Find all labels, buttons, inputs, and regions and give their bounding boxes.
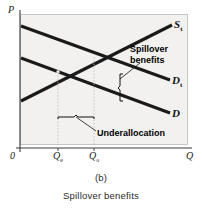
spillover-benefits-line1: Spillover bbox=[130, 44, 168, 55]
x-tick-qe-sub: e bbox=[60, 157, 63, 163]
underallocation-leader-line bbox=[76, 117, 96, 131]
underallocation-annotation: Underallocation bbox=[97, 128, 165, 139]
spillover-benefits-annotation: Spillover benefits bbox=[130, 44, 168, 66]
x-tick-qe: Qe bbox=[53, 150, 63, 163]
origin-label: 0 bbox=[10, 150, 15, 161]
curve-label-d-base: D bbox=[172, 107, 180, 119]
spillover-benefits-figure: P Q 0 Qe Qo St Dt D Spillover benefits U… bbox=[0, 0, 202, 209]
x-tick-qo: Qo bbox=[89, 150, 99, 163]
caption-title: Spillover benefits bbox=[0, 190, 202, 201]
x-axis-label: Q bbox=[186, 150, 193, 161]
curve-label-st: St bbox=[174, 18, 182, 33]
y-axis-label: P bbox=[8, 4, 14, 15]
curve-label-dt-base: D bbox=[172, 74, 180, 86]
demand-curve-d bbox=[21, 58, 170, 113]
curve-label-dt-sub: t bbox=[180, 81, 182, 89]
x-tick-qo-sub: o bbox=[96, 157, 99, 163]
spillover-benefits-line2: benefits bbox=[130, 55, 168, 66]
curve-label-st-sub: t bbox=[180, 25, 182, 33]
curve-label-d: D bbox=[172, 107, 180, 119]
curve-label-dt: Dt bbox=[172, 74, 182, 89]
caption-panel-letter: (b) bbox=[0, 172, 202, 183]
